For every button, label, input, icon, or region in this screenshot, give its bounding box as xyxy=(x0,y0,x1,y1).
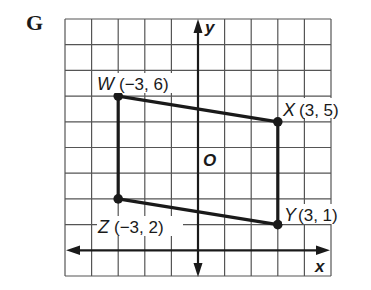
x-axis-label: x xyxy=(314,257,326,276)
label-x: X(3, 5) xyxy=(282,100,339,120)
label-y: Y(3, 1) xyxy=(284,205,338,225)
point-x xyxy=(273,117,283,127)
y-axis-label: y xyxy=(204,18,216,37)
label-z: Z(−3, 2) xyxy=(97,217,164,237)
point-y xyxy=(273,220,283,230)
origin-label: O xyxy=(203,151,216,170)
coordinate-plane: y x O W(−3, 6) X(3, 5) Y(3, 1) Z(−3, 2) xyxy=(0,0,371,290)
label-w: W(−3, 6) xyxy=(97,74,169,94)
point-z xyxy=(113,194,123,204)
